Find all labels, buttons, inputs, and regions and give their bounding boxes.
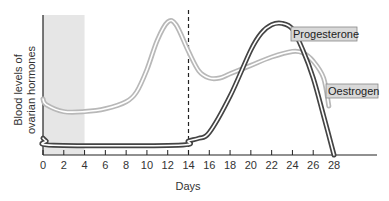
hormone-chart: 0246810121416182022242628 ProgesteroneOe…: [0, 0, 389, 201]
legend-oestrogen: Oestrogen: [326, 84, 379, 98]
y-axis-title-line-1: Blood levels of: [12, 53, 24, 125]
legend-progesterone: Progesterone: [291, 27, 359, 41]
legend-label: Progesterone: [293, 28, 359, 40]
legend-label: Oestrogen: [328, 85, 379, 97]
y-axis-title-line-2: ovarian hormones: [25, 45, 37, 134]
y-axis-title: Blood levels of ovarian hormones: [12, 45, 37, 134]
x-tick-label: 26: [307, 159, 319, 171]
x-tick-label: 2: [61, 159, 67, 171]
x-tick-label: 8: [123, 159, 129, 171]
x-tick-label: 24: [286, 159, 298, 171]
x-tick-label: 4: [82, 159, 88, 171]
x-tick-label: 28: [328, 159, 340, 171]
x-tick-label: 16: [203, 159, 215, 171]
oestrogen-line-outline: [43, 20, 329, 112]
x-tick-label: 6: [102, 159, 108, 171]
x-tick-label: 12: [162, 159, 174, 171]
x-tick-label: 14: [182, 159, 194, 171]
x-tick-label: 10: [141, 159, 153, 171]
x-tick-label: 22: [266, 159, 278, 171]
x-tick-label: 20: [245, 159, 257, 171]
x-tick-label: 0: [40, 159, 46, 171]
menstruation-shaded-region: [43, 15, 85, 155]
x-axis-title: Days: [175, 180, 201, 192]
oestrogen-line-highlight: [43, 20, 329, 112]
series-oestrogen: [43, 20, 329, 112]
x-tick-label: 18: [224, 159, 236, 171]
